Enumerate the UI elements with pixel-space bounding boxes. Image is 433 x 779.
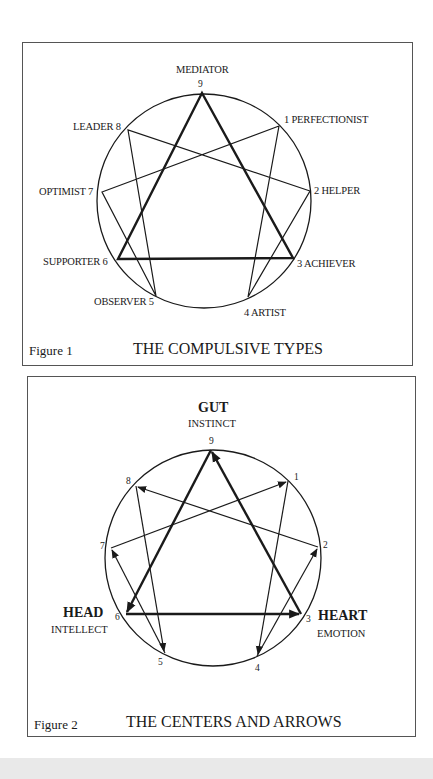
point-6-number: 6 — [115, 612, 120, 622]
head-center-subtitle: INTELLECT — [51, 624, 108, 635]
point-7-number: 7 — [100, 541, 105, 551]
point-8-number: 8 — [126, 476, 131, 486]
enneagram-circle — [105, 450, 321, 666]
arrow-3-to-9 — [212, 452, 301, 614]
arrow-9-to-6 — [127, 450, 211, 612]
point-1-number: 1 — [294, 472, 299, 482]
gut-center-title: GUT — [198, 400, 228, 416]
heart-center-subtitle: EMOTION — [317, 628, 365, 639]
point-5-number: 5 — [158, 657, 163, 667]
figure-2-label: Figure 2 — [34, 717, 78, 733]
point-4-number: 4 — [255, 663, 260, 673]
head-center-title: HEAD — [63, 605, 103, 621]
gut-center-subtitle: INSTINCT — [188, 418, 236, 429]
point-2-number: 2 — [323, 540, 328, 550]
arrow-5-to-7 — [112, 550, 165, 653]
figure-2-title: THE CENTERS AND ARROWS — [126, 713, 342, 731]
figure-2-enneagram — [0, 0, 433, 779]
point-3-number: 3 — [306, 614, 311, 624]
point-9-number: 9 — [209, 436, 214, 446]
heart-center-title: HEART — [318, 608, 367, 624]
arrow-8-to-5 — [136, 486, 164, 651]
arrow-4-to-2 — [257, 549, 317, 656]
